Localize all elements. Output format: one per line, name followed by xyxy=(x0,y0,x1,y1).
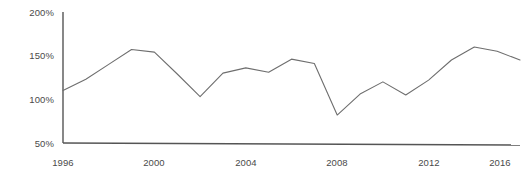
x-tick-label-1996: 1996 xyxy=(41,157,85,168)
line-chart: 200% 150% 100% 50% 1996 2000 2004 2008 2… xyxy=(0,0,523,180)
chart-plot-area xyxy=(0,0,523,180)
x-axis-line xyxy=(63,143,520,145)
y-tick-label-150: 150% xyxy=(12,50,54,61)
y-tick-label-200: 200% xyxy=(12,7,54,18)
x-tick-label-2004: 2004 xyxy=(224,157,268,168)
x-tick-label-2000: 2000 xyxy=(132,157,176,168)
x-tick-label-2012: 2012 xyxy=(407,157,451,168)
data-series-line xyxy=(63,47,520,115)
x-tick-label-2008: 2008 xyxy=(315,157,359,168)
y-tick-label-50: 50% xyxy=(12,138,54,149)
y-tick-label-100: 100% xyxy=(12,94,54,105)
x-tick-label-2016: 2016 xyxy=(478,157,522,168)
